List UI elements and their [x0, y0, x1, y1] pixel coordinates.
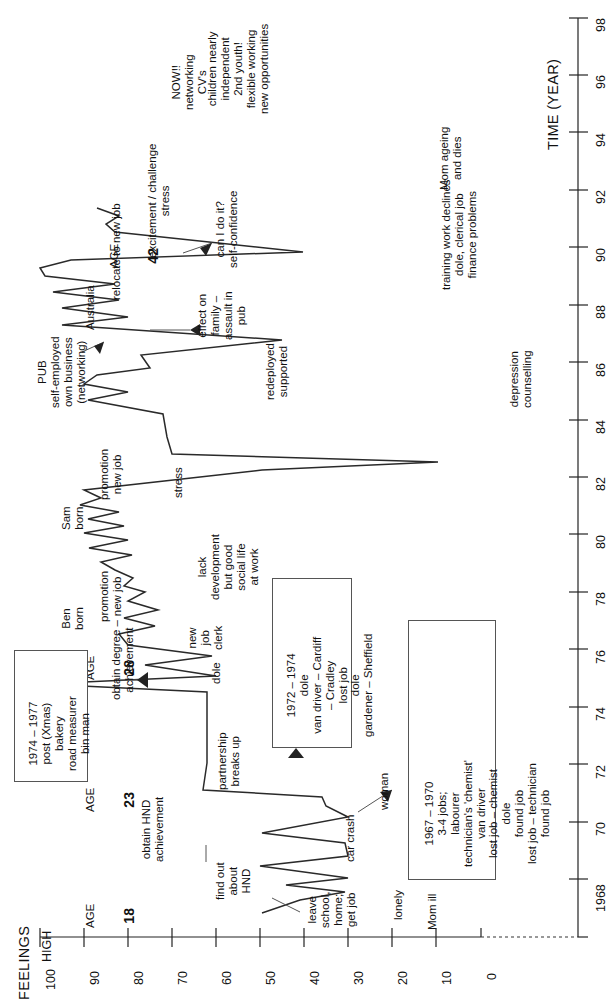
time-tick: 70: [594, 822, 608, 836]
annotation-ben-born: Ben born: [60, 607, 86, 630]
callout-text: 1972 – 1974 dole van driver – Cardiff – …: [285, 634, 375, 737]
feelings-tick: 50: [264, 971, 278, 985]
annotation-car-crash: car crash: [344, 815, 357, 862]
annotation-new-job-clerk: new job clerk: [186, 626, 225, 650]
annotation-mom-ageing: Mom ageing and dies: [438, 127, 464, 190]
callout-box-1974-1977: 1974 – 1977 post (Xmas) bakery road meas…: [14, 650, 88, 782]
feelings-tick: 10: [440, 971, 454, 985]
annotation-depression: depression counselling: [508, 350, 534, 408]
time-tick: 86: [594, 363, 608, 377]
annotation-obtain-degree: obtain degree – achievement: [110, 620, 136, 700]
age-caption: AGE: [84, 904, 97, 928]
annotation-promotion-new-job-2: promotion new job: [98, 449, 124, 500]
age-marker-18: AGE 18: [58, 904, 151, 928]
annotation-redeployed: redeployed supported: [264, 343, 290, 400]
age-value: 23: [122, 788, 138, 812]
annotation-lonely: lonely: [392, 890, 405, 920]
time-axis-title: TIME (YEAR): [545, 59, 561, 150]
callout-text: 1967 – 1970 3-4 jobs; labourer technicia…: [423, 760, 552, 867]
annotation-now-2: children nearly independent 2nd youth! f…: [206, 24, 270, 114]
annotation-sam-born: Sam born: [60, 506, 86, 530]
annotation-lack-development: lack development but good social life at…: [196, 534, 260, 600]
annotation-effect-on-family: effect on family – assault in pub: [196, 291, 248, 340]
time-tick: 94: [594, 133, 608, 147]
feelings-tick: 80: [132, 971, 146, 985]
callout-box-1967-1970: 1967 – 1970 3-4 jobs; labourer technicia…: [408, 620, 496, 880]
time-tick: 92: [594, 190, 608, 204]
time-tick: 98: [594, 18, 608, 32]
annotation-find-out-hnd: find out about HND: [214, 862, 253, 900]
feelings-tick: 70: [176, 971, 190, 985]
life-line-chart: FEELINGS HIGH TIME (YEAR) 100 90 80 70 6…: [0, 0, 609, 1003]
time-tick: 74: [594, 707, 608, 721]
annotation-pub: PUB self-employed own business (networki…: [36, 336, 88, 408]
time-tick: 72: [594, 765, 608, 779]
annotation-partnership: partnership breaks up: [216, 732, 242, 790]
time-tick: 96: [594, 75, 608, 89]
feelings-tick: 40: [308, 971, 322, 985]
feelings-tick: 100: [44, 969, 58, 990]
feelings-tick: 90: [88, 971, 102, 985]
time-tick: 76: [594, 650, 608, 664]
time-tick: 78: [594, 592, 608, 606]
annotation-training-work: training work declines dole, clerical jo…: [440, 179, 479, 290]
time-tick: 84: [594, 420, 608, 434]
age-marker-23: AGE 23: [58, 788, 151, 812]
age-value: 18: [122, 904, 138, 928]
age-caption: AGE: [84, 788, 97, 812]
annotation-mom-ill: Mom ill: [426, 894, 439, 930]
time-tick: 80: [594, 535, 608, 549]
time-tick: 88: [594, 305, 608, 319]
annotation-dole: dole: [210, 662, 223, 684]
annotation-australia: Australia: [84, 285, 97, 330]
annotation-excitement: excitement / challenge stress: [146, 144, 172, 258]
annotation-leave-school: leave school, home; get job: [306, 892, 358, 928]
annotation-can-i-do-it: can I do it? self-confidence: [214, 191, 240, 268]
feelings-tick: 0: [485, 973, 499, 980]
time-tick: 90: [594, 248, 608, 262]
time-tick: 82: [594, 477, 608, 491]
annotation-obtain-hnd: obtain HND achievement: [140, 797, 166, 862]
annotation-now: NOW!! networking CV's: [170, 54, 209, 110]
callout-box-1972-1974: 1972 – 1974 dole van driver – Cardiff – …: [272, 578, 352, 748]
feelings-tick: 60: [220, 971, 234, 985]
feelings-high-label: HIGH: [40, 931, 54, 962]
callout-text: 1974 – 1977 post (Xmas) bakery road meas…: [27, 696, 91, 771]
feelings-tick: 30: [352, 971, 366, 985]
annotation-promotion-new-job-1: promotion new job: [98, 571, 124, 622]
time-tick: 1968: [594, 884, 608, 912]
feelings-axis-title: FEELINGS: [16, 926, 32, 1000]
feelings-tick: 20: [396, 971, 410, 985]
annotation-relocate: relocate to new job: [110, 203, 123, 300]
annotation-stress: stress: [172, 467, 185, 498]
annotation-woman: woman: [378, 773, 391, 810]
